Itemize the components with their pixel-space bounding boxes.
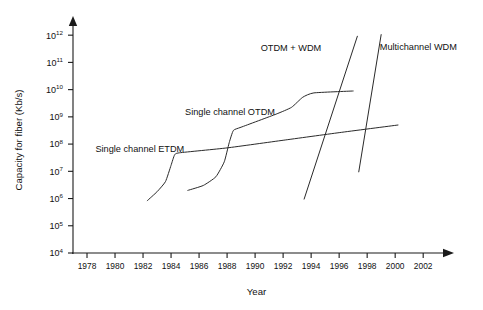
x-tick-label: 1996 <box>330 261 349 271</box>
x-tick-label: 1998 <box>358 261 377 271</box>
series-line-1 <box>188 91 353 190</box>
y-tick-label: 1012 <box>46 29 63 41</box>
y-tick-base: 10 <box>50 167 60 177</box>
y-tick-label: 1011 <box>47 56 64 68</box>
y-tick-base: 10 <box>50 112 60 122</box>
x-axis-title: Year <box>247 286 267 297</box>
x-tick-label: 1992 <box>274 261 293 271</box>
y-tick-label: 106 <box>50 192 64 204</box>
y-tick-base: 10 <box>50 139 60 149</box>
x-axis-ticks <box>87 253 423 258</box>
x-tick-label: 1994 <box>302 261 321 271</box>
y-tick-base: 10 <box>50 248 60 258</box>
x-tick-label: 1980 <box>106 261 125 271</box>
x-tick-label: 1984 <box>162 261 181 271</box>
series-label-0: Single channel ETDM <box>95 144 184 154</box>
x-tick-label: 1988 <box>218 261 237 271</box>
y-tick-base: 10 <box>50 221 60 231</box>
y-tick-exponent: 10 <box>56 83 63 90</box>
x-tick-label: 1978 <box>78 261 97 271</box>
y-tick-label: 108 <box>50 138 64 150</box>
y-axis-tick-labels: 104105106107108109101010111012 <box>46 29 63 258</box>
x-axis-arrowhead <box>443 249 454 257</box>
y-tick-label: 104 <box>50 247 64 259</box>
series-line-2 <box>304 36 357 199</box>
x-tick-label: 1982 <box>134 261 153 271</box>
y-tick-exponent: 6 <box>60 192 64 199</box>
series-line-3 <box>359 35 381 172</box>
y-tick-exponent: 7 <box>60 165 64 172</box>
y-axis-ticks <box>68 35 73 253</box>
y-tick-base: 10 <box>47 58 57 68</box>
y-tick-base: 10 <box>50 194 60 204</box>
y-axis-title: Capacity for fiber (Kb/s) <box>13 90 24 191</box>
x-tick-label: 1990 <box>246 261 265 271</box>
y-tick-label: 1010 <box>46 83 63 95</box>
chart-figure: 104105106107108109101010111012 197819801… <box>0 0 483 310</box>
y-tick-exponent: 9 <box>60 111 64 118</box>
data-series <box>147 35 398 201</box>
series-annotations: Single channel ETDMSingle channel OTDMOT… <box>95 42 456 154</box>
y-tick-label: 107 <box>50 165 64 177</box>
series-label-2: OTDM + WDM <box>261 43 321 53</box>
x-tick-label: 2000 <box>386 261 405 271</box>
series-label-3: Multichannel WDM <box>380 42 457 52</box>
x-tick-label: 2002 <box>414 261 433 271</box>
x-tick-label: 1986 <box>190 261 209 271</box>
series-label-1: Single channel OTDM <box>185 107 275 117</box>
y-axis-arrowhead <box>69 16 77 26</box>
x-axis-tick-labels: 1978198019821984198619881990199219941996… <box>78 261 433 271</box>
y-tick-exponent: 11 <box>57 56 64 63</box>
y-tick-label: 109 <box>50 111 64 123</box>
y-tick-exponent: 5 <box>60 220 64 227</box>
y-tick-base: 10 <box>46 31 56 41</box>
y-tick-exponent: 12 <box>56 29 63 36</box>
y-tick-base: 10 <box>46 85 56 95</box>
y-tick-exponent: 8 <box>60 138 64 145</box>
chart-canvas: 104105106107108109101010111012 197819801… <box>0 0 483 310</box>
y-tick-label: 105 <box>50 220 64 232</box>
y-tick-exponent: 4 <box>60 247 64 254</box>
